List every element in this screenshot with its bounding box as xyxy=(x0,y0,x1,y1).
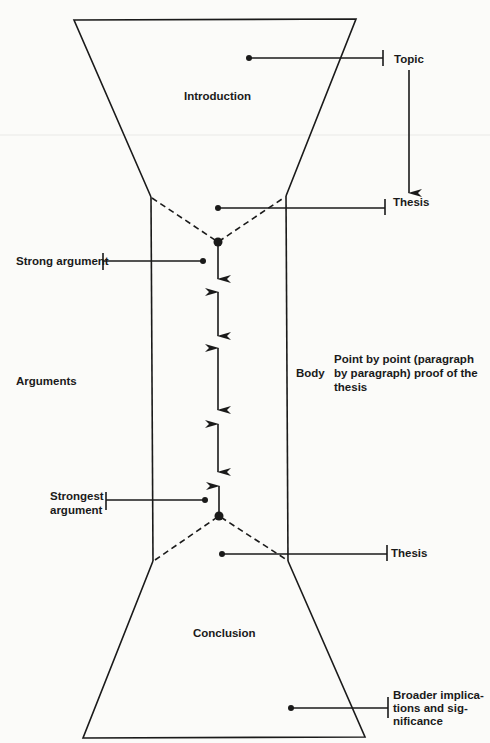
body-label: Body xyxy=(296,367,325,379)
broader-implications-label: Broader implica- tions and sig- nificanc… xyxy=(393,689,484,727)
svg-text:argument: argument xyxy=(50,504,103,516)
arguments-label: Arguments xyxy=(16,375,77,387)
thesis-bottom-label: Thesis xyxy=(391,547,427,559)
conclusion-label: Conclusion xyxy=(193,627,256,639)
argument-arrow-chain xyxy=(218,244,219,514)
strong-argument-pointer xyxy=(103,253,206,270)
thesis-top-pointer xyxy=(215,199,385,215)
strong-argument-label: Strong argument xyxy=(16,255,109,267)
svg-text:Broader implica-: Broader implica- xyxy=(393,689,484,701)
strongest-argument-label: Strongest argument xyxy=(50,490,104,516)
svg-text:by paragraph) proof of the: by paragraph) proof of the xyxy=(334,367,478,379)
topic-label: Topic xyxy=(394,53,424,65)
broader-implications-pointer xyxy=(288,697,388,718)
thesis-top-label: Thesis xyxy=(393,196,429,208)
conclusion-funnel xyxy=(83,561,365,738)
essay-structure-diagram: Topic Thesis Strong argument Introductio… xyxy=(0,0,490,743)
body-description: Point by point (paragraph by paragraph) … xyxy=(334,353,478,393)
thesis-bottom-pointer xyxy=(219,545,387,561)
thesis-narrowing-dashes-top xyxy=(152,197,285,242)
svg-text:nificance: nificance xyxy=(393,715,443,727)
svg-text:tions and sig-: tions and sig- xyxy=(393,702,468,714)
strongest-argument-pointer xyxy=(106,492,208,510)
svg-text:Strongest: Strongest xyxy=(50,490,104,502)
svg-text:Point by point (paragraph: Point by point (paragraph xyxy=(334,353,474,365)
introduction-funnel xyxy=(74,19,356,197)
topic-pointer xyxy=(246,50,383,66)
introduction-label: Introduction xyxy=(184,90,251,102)
svg-text:thesis: thesis xyxy=(334,381,367,393)
